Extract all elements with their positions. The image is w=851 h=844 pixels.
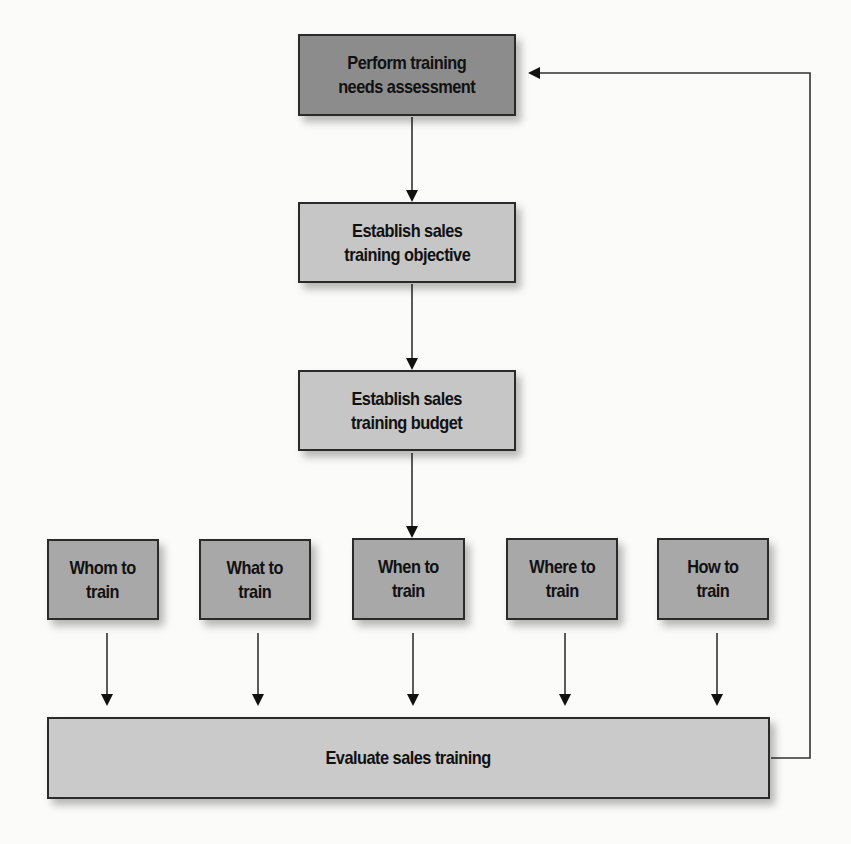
node-what-to-train[interactable]: What to train	[199, 539, 311, 620]
node-label: Whom to train	[70, 556, 136, 604]
node-label: When to train	[378, 555, 439, 603]
node-label: Establish sales training objective	[344, 219, 470, 267]
sales-training-flowchart: Perform training needs assessment Establ…	[0, 0, 851, 844]
node-when-to-train[interactable]: When to train	[352, 538, 465, 620]
node-whom-to-train[interactable]: Whom to train	[47, 539, 159, 620]
node-label: Establish sales training budget	[351, 387, 462, 435]
node-how-to-train[interactable]: How to train	[657, 538, 769, 620]
node-evaluate-sales-training[interactable]: Evaluate sales training	[47, 717, 770, 799]
node-where-to-train[interactable]: Where to train	[506, 538, 618, 620]
node-establish-sales-training-budget[interactable]: Establish sales training budget	[298, 370, 516, 451]
feedback-loop-arrow	[530, 73, 810, 758]
node-label: Perform training needs assessment	[338, 51, 475, 99]
node-label: Where to train	[529, 555, 595, 603]
node-label: What to train	[227, 556, 283, 604]
node-establish-sales-training-objective[interactable]: Establish sales training objective	[298, 202, 516, 283]
node-label: How to train	[687, 555, 738, 603]
node-label: Evaluate sales training	[326, 746, 491, 770]
node-perform-training-needs-assessment[interactable]: Perform training needs assessment	[298, 34, 516, 116]
